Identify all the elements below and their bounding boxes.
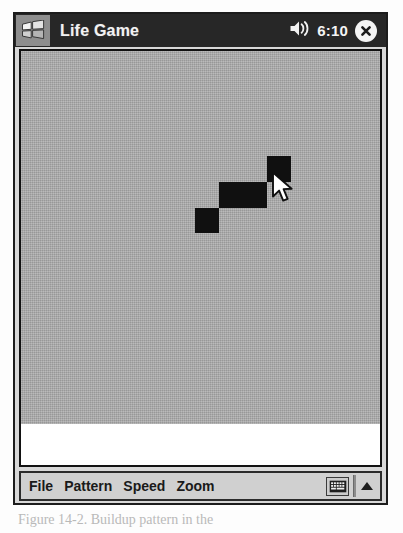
client-area — [19, 49, 382, 467]
keyboard-icon[interactable] — [326, 477, 349, 496]
keyboard-glyph — [329, 480, 347, 493]
board-blank-strip — [21, 424, 380, 465]
life-cell[interactable] — [219, 182, 267, 208]
window-title: Life Game — [60, 22, 139, 40]
close-x-glyph — [359, 24, 373, 38]
menu-item-pattern[interactable]: Pattern — [64, 478, 112, 494]
menu-bar: File Pattern Speed Zoom — [19, 471, 382, 501]
chevron-up-icon[interactable] — [361, 482, 373, 490]
windows-flag-icon[interactable] — [16, 15, 50, 46]
windows-flag-glyph — [21, 20, 45, 41]
pocketpc-device-window: Life Game 6:10 — [13, 12, 388, 505]
menu-bar-divider — [353, 475, 356, 497]
speaker-glyph — [289, 20, 310, 37]
scanned-page-background: Life Game 6:10 — [0, 0, 403, 533]
menu-item-list: File Pattern Speed Zoom — [21, 478, 214, 494]
life-cell[interactable] — [267, 156, 291, 182]
life-cell[interactable] — [195, 208, 219, 233]
speaker-icon[interactable] — [289, 20, 310, 41]
close-icon[interactable] — [355, 20, 377, 42]
menu-item-speed[interactable]: Speed — [123, 478, 165, 494]
menu-item-zoom[interactable]: Zoom — [176, 478, 214, 494]
figure-caption: Figure 14-2. Buildup pattern in the — [18, 512, 388, 532]
life-game-board[interactable] — [21, 51, 380, 424]
title-bar: Life Game 6:10 — [15, 14, 386, 47]
clock-label: 6:10 — [317, 22, 348, 39]
title-bar-status-area: 6:10 — [289, 20, 386, 42]
menu-item-file[interactable]: File — [29, 478, 53, 494]
menu-bar-right-area — [326, 473, 380, 499]
